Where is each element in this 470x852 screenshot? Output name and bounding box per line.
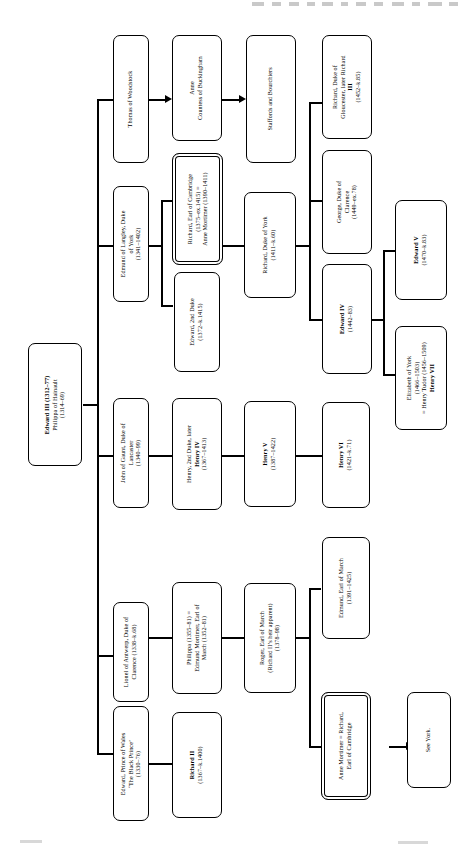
connector-roger-split: [309, 588, 311, 748]
node-edward-2nd-duke-text: Edward, 2nd Duke(1372–k.1415): [189, 298, 204, 345]
node-edward-iv[interactable]: Edward IV(1442–83): [322, 264, 372, 374]
connector-philippa-roger: [222, 637, 244, 639]
node-richard-earl-of-cambridge[interactable]: Richard, Earl of Cambridge(1375–ex.1415)…: [172, 153, 223, 265]
node-anne-countess-of-buckingham-text: AnneCountess of Buckingham: [189, 56, 204, 120]
node-richard-duke-of-york[interactable]: Richard, Duke of York(1411–k.60): [244, 192, 296, 298]
connector-anne-staffords: [222, 99, 240, 101]
node-thomas-of-woodstock[interactable]: Thomas of Woodstock: [113, 35, 149, 163]
node-edward-iv-text: Edward IV(1442–83): [339, 304, 354, 334]
node-lionel-of-antwerp-text: Lionel of Antwerp, Duke ofClarence (1338…: [123, 617, 138, 687]
connector-to-lionel: [97, 655, 113, 657]
connector-trunk-up-woodstock: [97, 99, 99, 207]
connector-roger-out: [296, 637, 310, 639]
node-edward3-text: Edward III (1312–77)Philippa of Hainault…: [44, 375, 67, 434]
node-henry-iv[interactable]: Henry, 2nd Duke, laterHenry IV(1367–1413…: [172, 398, 222, 510]
node-henry-vi-text: Henry VI(1421–k.71): [338, 439, 353, 470]
node-edmund-earl-of-march[interactable]: Edmund, Earl of March(1391–1425): [322, 537, 370, 639]
connector-henry4-henry5: [222, 455, 244, 457]
node-richard-duke-of-gloucester-text: Richard, Duke ofGloucester, later Richar…: [332, 55, 362, 118]
node-staffords-and-bourchiers[interactable]: Staffords and Bourchiers: [246, 35, 296, 163]
node-philippa-mortimer-text: Philippa (1355–81) =Edmund Mortimer, Ear…: [186, 604, 209, 671]
node-henry-iv-text: Henry, 2nd Duke, laterHenry IV(1367–1413…: [186, 425, 209, 483]
connector-cambridge-richardyork: [223, 245, 244, 247]
node-edward-v-text: Edward V(1470–k.83): [413, 234, 428, 265]
connector-to-woodstock: [97, 99, 113, 101]
trunk-edward3-children: [97, 205, 99, 755]
connector-annemortimer-seeyork: [389, 746, 407, 748]
node-elizabeth-of-york[interactable]: Elizabeth of York(1466–1503)= Henry Tudo…: [395, 326, 447, 430]
node-roger-earl-of-march-text: Roger, Earl of March(Richard II’s heir a…: [259, 603, 282, 672]
connector-henry5-henry6: [296, 455, 322, 457]
node-richard-duke-of-york-text: Richard, Duke of York(1411–k.60): [262, 216, 277, 273]
connector-roger-to-edmundmarch: [309, 588, 321, 590]
node-anne-countess-of-buckingham[interactable]: AnneCountess of Buckingham: [172, 35, 222, 141]
node-edmund-of-langley-text: Edmund of Langley, Dukeof York(1341–1402…: [120, 211, 143, 278]
connector-lionel-philippa: [148, 637, 172, 639]
node-thomas-of-woodstock-text: Thomas of Woodstock: [127, 71, 135, 128]
node-richard-earl-of-cambridge-text: Richard, Earl of Cambridge(1375–ex.1415)…: [186, 172, 209, 245]
node-george-duke-of-clarence[interactable]: George, Duke ofClarence(1449–ex.78): [322, 150, 372, 254]
node-edmund-earl-of-march-text: Edmund, Earl of March(1391–1425): [338, 558, 353, 618]
node-richard-duke-of-gloucester[interactable]: Richard, Duke ofGloucester, later Richar…: [322, 35, 372, 139]
connector-woodstock-anne: [148, 99, 166, 101]
node-john-of-gaunt[interactable]: John of Gaunt, Duke ofLancaster(1340–99): [113, 398, 149, 508]
node-john-of-gaunt-text: John of Gaunt, Duke ofLancaster(1340–99): [120, 423, 143, 483]
connector-gaunt-henry4: [148, 455, 172, 457]
node-edward3[interactable]: Edward III (1312–77)Philippa of Hainault…: [28, 343, 82, 466]
node-black-prince-text: Edward, Prince of Wales‘The Black Prince…: [120, 732, 143, 795]
node-richard-ii[interactable]: Richard II(1367–k.1400): [172, 712, 222, 818]
connector-roger-to-annemortimer: [309, 746, 321, 748]
connector-langley-split: [161, 200, 163, 306]
connector-to-gaunt: [97, 455, 113, 457]
arrow-anne-to-staffords: [239, 95, 246, 103]
connector-york-to-gloucester: [309, 102, 322, 104]
node-edward-v[interactable]: Edward V(1470–k.83): [395, 200, 447, 300]
scan-artifacts-top: [0, 0, 470, 10]
connector-richardyork-split: [309, 102, 311, 321]
node-edmund-of-langley[interactable]: Edmund of Langley, Dukeof York(1341–1402…: [113, 186, 149, 302]
connector-to-langley: [97, 245, 113, 247]
connector-york-to-edward4: [309, 319, 322, 321]
node-roger-earl-of-march[interactable]: Roger, Earl of March(Richard II’s heir a…: [244, 583, 296, 693]
node-anne-mortimer-richard-cambridge[interactable]: Anne Mortimer = Richard,Earl of Cambridg…: [321, 692, 371, 800]
node-staffords-and-bourchiers-text: Staffords and Bourchiers: [267, 67, 275, 130]
connector-blackprince-richard2: [148, 763, 172, 765]
connector-to-blackprince: [97, 753, 113, 755]
family-tree-diagram: Edward III (1312–77)Philippa of Hainault…: [0, 0, 470, 852]
node-lionel-of-antwerp[interactable]: Lionel of Antwerp, Duke ofClarence (1338…: [113, 602, 149, 702]
scan-artifact-bottom-right: [398, 841, 428, 844]
connector-richardyork-out: [296, 245, 310, 247]
node-george-duke-of-clarence-text: George, Duke ofClarence(1449–ex.78): [336, 181, 359, 223]
connector-langley-out: [148, 245, 162, 247]
node-see-york[interactable]: See York.: [407, 692, 451, 788]
node-black-prince[interactable]: Edward, Prince of Wales‘The Black Prince…: [113, 706, 149, 821]
node-edward-2nd-duke[interactable]: Edward, 2nd Duke(1372–k.1415): [174, 272, 220, 372]
node-philippa-mortimer[interactable]: Philippa (1355–81) =Edmund Mortimer, Ear…: [172, 582, 222, 694]
connector-york-to-george: [309, 200, 322, 202]
node-see-york-text: See York.: [425, 728, 433, 752]
scan-artifact-bottom-left: [20, 840, 42, 843]
connector-edward4-to-edward5: [383, 250, 395, 252]
node-richard-ii-text: Richard II(1367–k.1400): [189, 746, 204, 783]
arrow-woodstock-to-anne: [165, 95, 172, 103]
node-anne-mortimer-richard-cambridge-text: Anne Mortimer = Richard,Earl of Cambridg…: [338, 712, 353, 780]
connector-edward4-to-elizabeth: [383, 374, 395, 376]
node-henry-v[interactable]: Henry V(1387–1422): [244, 401, 296, 507]
connector-langley-to-edward2duke: [161, 305, 173, 307]
connector-edward4-split: [383, 250, 385, 376]
node-henry-vi[interactable]: Henry VI(1421–k.71): [322, 402, 370, 508]
node-henry-v-text: Henry V(1387–1422): [262, 438, 277, 471]
node-elizabeth-of-york-text: Elizabeth of York(1466–1503)= Henry Tudo…: [406, 342, 436, 414]
